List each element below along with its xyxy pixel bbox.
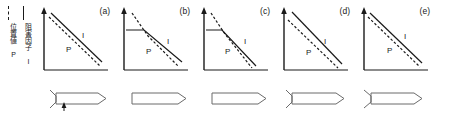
curve-inhibitor-b (126, 30, 182, 62)
y-axis-arrow-icon-d (281, 7, 287, 14)
projectile-outline-c (212, 93, 266, 104)
notch-fork-icon-e (364, 90, 371, 108)
specimen-d (274, 82, 354, 115)
specimen-e (354, 82, 434, 115)
plot-d: I P (274, 4, 354, 78)
curve-label-p-d: P (306, 48, 311, 57)
panel-b: (b) I P (114, 0, 194, 117)
figure-panel-series: 位置値 P 阻害因子 I (a) I P (0, 0, 455, 117)
panel-a: (a) I P (34, 0, 114, 117)
projectile-outline-d (292, 93, 344, 104)
y-axis-arrow-icon-b (121, 7, 127, 14)
plot-b: I P (114, 4, 194, 78)
notch-fork-icon-d (286, 90, 292, 108)
legend: 位置値 P 阻害因子 I (2, 4, 34, 80)
plot-e: I P (354, 4, 434, 78)
specimen-a (34, 82, 114, 115)
curve-inhibitor-a (51, 13, 102, 62)
curve-label-p-e: P (387, 46, 392, 55)
legend-entry-inhibitor: 阻害因子 I (17, 4, 32, 80)
curve-label-i-b: I (167, 37, 169, 46)
projectile-outline-e (371, 93, 422, 104)
curve-label-p-b: P (146, 47, 151, 56)
specimen-c (194, 82, 274, 115)
projectile-outline-b (132, 93, 186, 104)
legend-label-position: 位置値 P (2, 23, 17, 58)
y-axis-arrow-icon-c (201, 7, 207, 14)
curve-label-i-e: I (404, 32, 406, 41)
curve-position-d (288, 20, 338, 68)
curve-inhibitor-d (292, 12, 342, 64)
curve-position-a (49, 17, 100, 66)
dashed-line-swatch-icon (8, 6, 9, 20)
panel-c: (c) I P (194, 0, 274, 117)
up-arrow-icon-a (62, 102, 67, 108)
curve-inhibitor-e (370, 13, 422, 63)
panel-d: (d) I P (274, 0, 354, 117)
legend-entry-position: 位置値 P (2, 4, 17, 80)
legend-label-inhibitor: 阻害因子 I (17, 23, 32, 65)
notch-fork-icon-a (50, 90, 56, 108)
curve-label-i-a: I (82, 31, 84, 40)
projectile-outline-a (56, 93, 106, 104)
curve-label-p-c: P (225, 47, 230, 56)
solid-line-swatch-icon (23, 6, 24, 20)
curve-inhibitor-c (206, 30, 256, 66)
curve-label-p-a: P (66, 45, 71, 54)
plot-a: I P (34, 4, 114, 78)
specimen-b (114, 82, 194, 115)
y-axis-arrow-icon-e (361, 7, 367, 14)
panel-e: (e) I P (354, 0, 434, 117)
curve-label-i-c: I (244, 37, 246, 46)
y-axis-arrow-icon-a (41, 7, 47, 14)
curve-label-i-d: I (324, 37, 326, 46)
curve-position-e (368, 17, 420, 67)
plot-c: I P (194, 4, 274, 78)
